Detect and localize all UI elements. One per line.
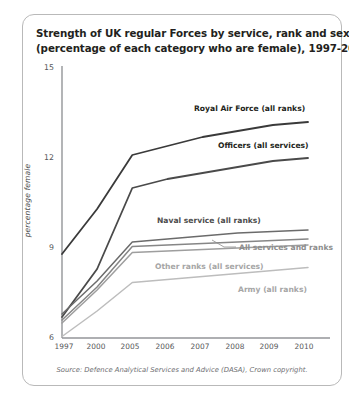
series-label-all-services-and-ranks: All services and ranks: [239, 243, 333, 252]
series-line-army-all-ranks: [62, 268, 308, 337]
series-label-army: Army (all ranks): [238, 285, 307, 294]
series-label-royal-air-force: Royal Air Force (all ranks): [194, 104, 305, 113]
chart-figure: Strength of UK regular Forces by service…: [0, 0, 349, 402]
series-label-naval-service: Naval service (all ranks): [157, 216, 261, 225]
series-label-officers: Officers (all services): [218, 141, 309, 150]
source-note: Source: Defence Analytical Services and …: [22, 366, 342, 374]
series-lines: [62, 122, 308, 337]
plot-area: [0, 0, 349, 402]
series-label-other-ranks: Other ranks (all services): [155, 262, 264, 271]
